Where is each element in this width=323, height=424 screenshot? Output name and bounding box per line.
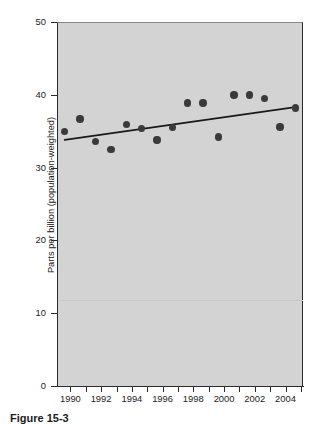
x-axis-tick-label: 2004 — [266, 394, 306, 403]
data-point — [153, 136, 160, 143]
data-point — [76, 115, 83, 122]
x-axis-tick — [132, 386, 133, 392]
x-axis-tick — [101, 386, 102, 392]
data-point — [230, 91, 237, 98]
y-axis-title: Parts per billion (population-weighted) — [46, 50, 56, 340]
x-axis-tick — [301, 386, 302, 392]
y-axis-tick-label: 0 — [6, 381, 46, 390]
plot-hairline-artifact — [59, 300, 303, 301]
y-axis-tick-label: 30 — [6, 163, 46, 172]
x-axis-tick — [163, 386, 164, 392]
x-axis-tick — [255, 386, 256, 392]
data-point — [292, 104, 299, 111]
data-point — [215, 133, 222, 140]
x-axis-tick — [270, 386, 271, 392]
data-point — [107, 146, 114, 153]
x-axis-tick — [70, 386, 71, 392]
x-axis-line — [57, 386, 304, 387]
y-axis-tick-label: 20 — [6, 235, 46, 244]
x-axis-tick — [117, 386, 118, 392]
y-axis-tick — [51, 386, 57, 387]
y-axis-tick — [51, 95, 57, 96]
y-axis-tick-label: 40 — [6, 90, 46, 99]
data-point — [184, 99, 191, 106]
x-axis-tick — [147, 386, 148, 392]
data-point — [276, 123, 283, 130]
plot-area — [57, 22, 303, 386]
data-point — [199, 99, 206, 106]
x-axis-tick — [239, 386, 240, 392]
y-axis-tick — [51, 168, 57, 169]
y-axis-tick — [51, 313, 57, 314]
y-axis-tick-label: 10 — [6, 308, 46, 317]
x-axis-tick — [224, 386, 225, 392]
y-axis-tick — [51, 240, 57, 241]
x-axis-tick — [86, 386, 87, 392]
y-axis-tick-label: 50 — [6, 17, 46, 26]
data-point — [246, 91, 253, 98]
x-axis-tick — [178, 386, 179, 392]
figure-caption: Figure 15-3 — [10, 412, 69, 424]
x-axis-tick — [286, 386, 287, 392]
x-axis-tick — [193, 386, 194, 392]
x-axis-tick — [209, 386, 210, 392]
y-axis-tick — [51, 22, 57, 23]
